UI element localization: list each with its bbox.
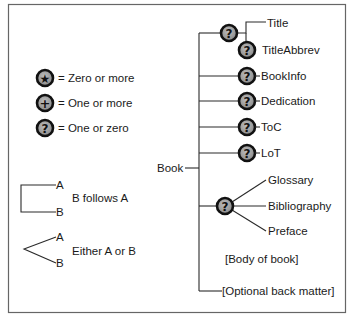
node-title-abbrev: TitleAbbrev xyxy=(262,44,320,56)
title-abbrev-node: ? xyxy=(239,42,255,58)
question-icon: ? xyxy=(217,198,233,214)
choice-label: Either A or B xyxy=(72,245,136,257)
svg-text:+: + xyxy=(40,96,51,111)
question-icon: ? xyxy=(239,119,255,135)
svg-text:?: ? xyxy=(244,147,251,161)
question-icon: ? xyxy=(221,25,237,41)
root-book: Book xyxy=(157,162,183,174)
legend-label-one-or-zero: = One or zero xyxy=(58,122,129,134)
title-group-node: ? xyxy=(221,25,237,41)
question-icon: ? xyxy=(239,93,255,109)
node-bibliography: Bibliography xyxy=(268,200,332,212)
svg-text:BookInfo: BookInfo xyxy=(261,70,306,82)
node-back-matter: [Optional back matter] xyxy=(222,285,335,297)
legend-zero-or-more: ★ = Zero or more xyxy=(37,70,134,86)
legend-one-or-more: + = One or more xyxy=(37,95,132,111)
legend-one-or-zero: ? = One or zero xyxy=(37,120,129,136)
choice-b: B xyxy=(56,257,64,269)
legend-label-zero-or-more: = Zero or more xyxy=(58,72,134,84)
plus-icon: + xyxy=(37,95,53,111)
svg-text:?: ? xyxy=(244,70,251,84)
question-icon: ? xyxy=(37,120,53,136)
node-title: Title xyxy=(267,17,288,29)
node-preface: Preface xyxy=(268,225,308,237)
node-glossary: Glossary xyxy=(268,174,314,186)
book-structure-diagram: ★ = Zero or more + = One or more ? = One… xyxy=(0,0,351,320)
sequence-b: B xyxy=(56,206,64,218)
question-icon: ? xyxy=(239,68,255,84)
node-body-of-book: [Body of book] xyxy=(225,253,299,265)
legend-label-one-or-more: = One or more xyxy=(58,97,132,109)
svg-text:?: ? xyxy=(244,44,251,58)
sequence-a: A xyxy=(56,179,64,191)
svg-text:ToC: ToC xyxy=(261,121,281,133)
star-icon: ★ xyxy=(37,70,53,86)
svg-text:Dedication: Dedication xyxy=(261,95,315,107)
sequence-label: B follows A xyxy=(72,192,129,204)
question-icon: ? xyxy=(239,145,255,161)
svg-text:?: ? xyxy=(226,27,233,41)
svg-text:?: ? xyxy=(244,95,251,109)
choice-a: A xyxy=(56,231,64,243)
svg-text:?: ? xyxy=(42,122,49,136)
svg-text:★: ★ xyxy=(40,72,51,86)
svg-text:LoT: LoT xyxy=(261,147,281,159)
question-icon: ? xyxy=(239,42,255,58)
svg-text:?: ? xyxy=(244,121,251,135)
svg-text:?: ? xyxy=(222,200,229,214)
